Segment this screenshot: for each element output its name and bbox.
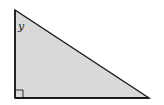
angle-label-y: y [17, 20, 25, 33]
triangle-diagram: y [0, 0, 164, 105]
right-triangle [15, 10, 149, 98]
